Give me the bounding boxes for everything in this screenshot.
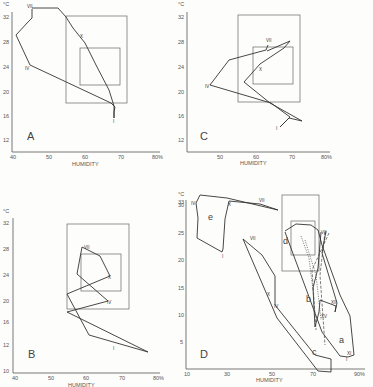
y-tick: 24 [3, 64, 9, 70]
y-tick: 28 [178, 39, 184, 45]
month-label: X [267, 292, 270, 297]
curve-label-d: d [283, 236, 288, 246]
panel-b: °C 32 28 24 20 16 12 10 40 50 60 70 80% … [3, 208, 164, 387]
x-tick: 80% [153, 375, 164, 381]
curve-d-trail-dotted [301, 236, 313, 290]
y-tick: 20 [3, 89, 9, 95]
x-tick: 60 [82, 154, 88, 160]
month-label: VII [84, 245, 90, 250]
month-label: IV [274, 304, 278, 309]
inner-comfort-box [80, 48, 120, 85]
y-unit-label: °C [178, 191, 184, 197]
y-tick: 12 [3, 342, 9, 348]
outer-comfort-box [282, 195, 319, 271]
y-tick: 28 [3, 39, 9, 45]
month-label: I [222, 254, 223, 259]
y-tick: 10 [3, 368, 9, 374]
inner-comfort-box [291, 221, 315, 255]
month-label: I [113, 346, 114, 351]
panel-d: °C 33 30 25 20 15 10 5 10 30 50 70 90% H… [178, 191, 365, 383]
x-tick: 70 [119, 375, 125, 381]
curve-label-b: b [306, 294, 311, 304]
curve-b [313, 231, 337, 327]
y-tick: 30 [178, 202, 184, 208]
curve-e [196, 195, 278, 252]
month-label: VII [259, 198, 265, 203]
y-unit-label: °C [178, 1, 184, 7]
y-tick: 5 [180, 339, 183, 345]
y-tick: 24 [3, 272, 9, 278]
month-label: XV [321, 314, 327, 319]
month-label: XII [331, 300, 337, 305]
x-tick: 70 [118, 154, 124, 160]
y-tick: 20 [3, 298, 9, 304]
x-tick: 80% [321, 154, 332, 160]
x-tick: 90% [354, 371, 365, 377]
month-label: I [276, 126, 277, 131]
x-tick: 70 [289, 154, 295, 160]
month-label: IV [191, 201, 195, 206]
y-unit-label: °C [3, 1, 9, 7]
x-axis-label: HUMIDITY [72, 161, 99, 167]
x-tick: 50 [48, 375, 54, 381]
x-axis-label: HUMIDITY [68, 382, 95, 387]
climograph-figure: °C 32 28 24 20 16 12 40 50 60 70 80% HUM… [0, 0, 373, 387]
y-tick: 16 [3, 319, 9, 325]
x-axis-label: HUMIDITY [240, 160, 267, 166]
month-label: VII [321, 230, 327, 235]
month-label: IV [25, 66, 29, 71]
month-label: X [108, 275, 111, 280]
month-label: VII [250, 236, 256, 241]
y-tick: 10 [178, 312, 184, 318]
panel-letter: A [27, 130, 35, 142]
x-tick: 40 [12, 375, 18, 381]
panel-letter: C [200, 130, 208, 142]
y-tick: 28 [3, 246, 9, 252]
outer-comfort-box [66, 16, 127, 103]
y-tick: 15 [178, 285, 184, 291]
y-tick: 20 [178, 89, 184, 95]
x-axis-label: HUMIDITY [256, 377, 283, 383]
x-tick: 30 [224, 371, 230, 377]
y-tick: 20 [178, 257, 184, 263]
curve-label-e: e [208, 212, 213, 222]
month-label: IV [205, 84, 209, 89]
panel-c: °C 32 28 24 20 16 12 50 60 70 80% HUMIDI… [178, 1, 332, 166]
y-tick: 32 [3, 220, 9, 226]
x-tick: 80% [152, 154, 163, 160]
x-tick: 50 [217, 154, 223, 160]
month-label: VII [266, 38, 272, 43]
month-label: I [113, 119, 114, 124]
y-tick: 32 [178, 14, 184, 20]
curve-c [243, 239, 331, 372]
x-tick: 60 [83, 375, 89, 381]
x-tick: 10 [184, 371, 190, 377]
month-label: XI [347, 351, 351, 356]
y-tick: 16 [178, 113, 184, 119]
month-label: X [259, 67, 262, 72]
panel-letter: B [28, 348, 35, 360]
y-unit-label: °C [3, 208, 9, 214]
month-label: IV [107, 300, 111, 305]
x-tick: 50 [46, 154, 52, 160]
y-tick: 12 [178, 137, 184, 143]
month-label: X [228, 202, 231, 207]
y-tick: 16 [3, 113, 9, 119]
y-tick: 24 [178, 64, 184, 70]
outer-comfort-box [67, 224, 129, 309]
month-label: X [80, 34, 83, 39]
y-tick: 12 [3, 137, 9, 143]
month-label: VII [27, 4, 33, 9]
curve-label-c: c [312, 347, 317, 357]
x-tick: 40 [10, 154, 16, 160]
panel-letter: D [200, 348, 208, 360]
y-tick: 25 [178, 230, 184, 236]
y-tick: 32 [3, 14, 9, 20]
climograph-line-a [16, 8, 115, 118]
x-tick: 70 [310, 371, 316, 377]
curve-label-a: a [339, 335, 344, 345]
panel-a: °C 32 28 24 20 16 12 40 50 60 70 80% HUM… [3, 1, 163, 167]
month-label: I [346, 357, 347, 362]
